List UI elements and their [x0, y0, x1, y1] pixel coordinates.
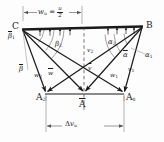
top-dimension-equals: = — [49, 8, 55, 16]
angle-label-alpha-2: α2 — [108, 39, 116, 46]
top-dimension-numerator: u — [57, 6, 63, 12]
velocity-triangle-figure: wu = u 2 C β1 β2 B α2 α α1 β w2 w v — [0, 0, 164, 142]
top-dimension-denominator: 2 — [57, 12, 63, 19]
angle-label-alpha-bar: α — [123, 52, 128, 59]
point-label-a0: A0 — [126, 93, 135, 102]
top-dimension-w-sub: u — [44, 11, 47, 16]
top-dimension-label: wu = u 2 — [38, 6, 63, 18]
bottom-dimension-label: Δvu — [65, 121, 77, 128]
vector-label-w2: w2 — [34, 72, 42, 79]
top-dimension-fraction: u 2 — [57, 6, 63, 18]
point-label-a-mean: A — [79, 100, 86, 109]
vector-label-v-bar: v — [88, 65, 91, 71]
vector-label-w-bar: w — [48, 70, 53, 76]
angle-label-beta-2: β2 — [55, 41, 62, 48]
point-label-a2: A2 — [36, 93, 45, 102]
angle-label-beta-bar: β — [19, 66, 23, 73]
trapezoid-outline — [22, 27, 143, 95]
angle-label-alpha-1: α1 — [145, 52, 153, 59]
vector-label-v2: v2 — [87, 47, 93, 54]
vectors-from-b — [48, 28, 143, 92]
vector-label-v1: v1 — [128, 66, 134, 73]
vector-label-w1: w1 — [110, 72, 118, 79]
alpha-1-leader — [131, 48, 145, 54]
diagram-canvas — [0, 0, 164, 142]
angle-label-beta-bar-1: β1 — [8, 33, 15, 40]
point-label-c: C — [12, 22, 19, 31]
point-label-b: B — [146, 21, 153, 30]
